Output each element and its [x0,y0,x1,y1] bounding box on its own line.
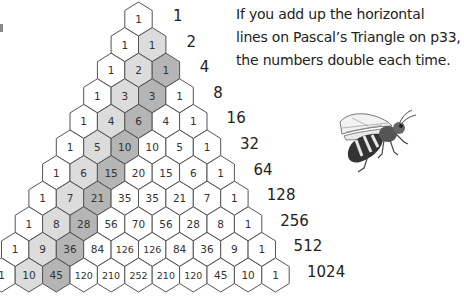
hex-value: 1 [204,141,211,153]
hex-value: 1 [26,218,33,230]
row-sum-label: 1 [173,9,183,24]
hex-value: 9 [39,243,46,255]
hex-value: 1 [80,115,87,127]
hex-value: 7 [204,192,211,204]
row-sum-label: 32 [240,137,259,152]
hex-value: 15 [104,167,117,179]
hex-value: 1 [231,192,238,204]
hex-value: 120 [75,270,93,281]
hex-value: 1 [39,192,46,204]
hex-value: 6 [190,167,197,179]
hex-value: 126 [116,244,134,255]
hex-value: 1 [258,243,265,255]
hex-value: 10 [146,141,159,153]
hex-value: 1 [12,243,19,255]
hex-value: 8 [53,218,60,230]
hex-value: 5 [176,141,183,153]
hex-value: 3 [121,90,128,102]
hex-value: 21 [173,192,186,204]
row-sum-label: 256 [280,214,309,229]
hex-value: 8 [217,218,224,230]
hex-value: 1 [121,39,128,51]
hex-value: 28 [77,218,90,230]
hex-value: 4 [163,115,170,127]
hex-value: 10 [22,269,35,281]
hex-value: 56 [104,218,118,230]
row-sum-label: 128 [267,188,296,203]
hex-value: 10 [118,141,131,153]
hex-value: 1 [190,115,197,127]
hex-value: 45 [50,269,63,281]
caption: If you add up the horizontal lines on Pa… [236,3,464,72]
hex-value: 1 [163,64,170,76]
hex-value: 36 [63,243,77,255]
hex-value: 5 [94,141,101,153]
hex-value: 9 [231,243,238,255]
hex-value: 56 [159,218,173,230]
hex-value: 70 [132,218,145,230]
hex-value: 6 [135,115,142,127]
row-sum-label: 4 [200,60,210,75]
hex-value: 35 [118,192,131,204]
hex-value: 210 [157,270,175,281]
hex-value: 7 [67,192,74,204]
caption-line: the numbers double each time. [236,49,464,72]
hex-value: 35 [146,192,159,204]
hex-value: 1 [149,39,156,51]
hex-value: 45 [214,269,227,281]
row-sum-label: 64 [253,163,272,178]
hex-value: 21 [91,192,104,204]
hex-value: 4 [108,115,115,127]
hex-value: 252 [129,270,147,281]
bee-icon [338,108,420,184]
caption-line: If you add up the horizontal [236,3,464,26]
hex-value: 1 [176,90,183,102]
hex-value: 1 [217,167,224,179]
hex-value: 84 [173,243,187,255]
row-sum-label: 512 [294,239,323,254]
hex-value: 84 [91,243,105,255]
row-sum-label: 1024 [307,265,345,280]
hex-value: 15 [159,167,172,179]
hex-value: 1 [135,13,142,25]
hex-value: 210 [102,270,120,281]
hex-value: 120 [184,270,202,281]
hex-value: 1 [53,167,60,179]
hex-value: 1 [245,218,252,230]
row-sum-label: 2 [186,35,196,50]
hex-value: 3 [149,90,156,102]
hex-value: 28 [187,218,200,230]
hex-value: 36 [200,243,214,255]
hex-value: 20 [132,167,145,179]
hex-value: 1 [0,269,5,281]
hex-value: 1 [94,90,101,102]
hex-value: 1 [108,64,115,76]
hex-value: 1 [272,269,279,281]
row-sum-label: 16 [227,111,246,126]
hex-value: 126 [143,244,161,255]
row-sum-label: 8 [213,86,223,101]
hex-value: 2 [135,64,142,76]
hex-value: 1 [67,141,74,153]
hex-value: 10 [241,269,254,281]
hex-value: 6 [80,167,87,179]
caption-line: lines on Pascal’s Triangle on p33, [236,26,464,49]
